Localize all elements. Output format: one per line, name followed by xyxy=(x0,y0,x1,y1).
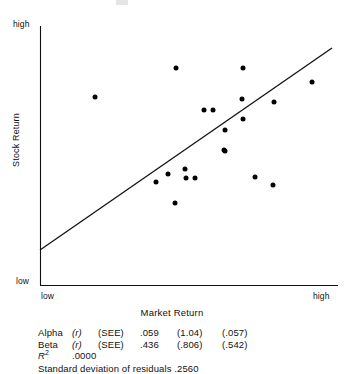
regression-statistics-block: Alpha(r)(SEE).059(1.04)(.057) Beta(r)(SE… xyxy=(38,327,247,374)
alpha-label: Alpha xyxy=(38,327,72,339)
beta-se2-value: (.542) xyxy=(222,339,247,351)
y-axis-low-label: low xyxy=(16,277,29,286)
data-point xyxy=(253,175,258,180)
data-point xyxy=(202,108,207,113)
alpha-statistics-row: Alpha(r)(SEE).059(1.04)(.057) xyxy=(38,327,247,339)
beta-r-label: (r) xyxy=(72,339,98,351)
beta-label: Beta xyxy=(38,339,72,351)
data-point-group xyxy=(93,66,315,206)
data-point xyxy=(241,117,246,122)
data-point xyxy=(241,66,246,71)
beta-see-label: (SEE) xyxy=(98,339,140,351)
data-point xyxy=(272,100,277,105)
data-point xyxy=(173,201,178,206)
data-point xyxy=(154,180,159,185)
scatter-plot-figure: high low low high Stock Return Market Re… xyxy=(0,0,344,300)
data-point xyxy=(183,167,188,172)
alpha-r-label: (r) xyxy=(72,327,98,339)
r-squared-letter: R xyxy=(38,350,45,361)
data-point xyxy=(166,172,171,177)
alpha-se1-value: (1.04) xyxy=(177,327,222,339)
plot-canvas xyxy=(0,0,344,300)
data-point xyxy=(193,176,198,181)
regression-line xyxy=(40,48,332,250)
x-axis-high-label: high xyxy=(313,292,329,301)
beta-value: .436 xyxy=(140,339,177,351)
data-point xyxy=(93,95,98,100)
data-point xyxy=(223,149,228,154)
beta-statistics-row: Beta(r)(SEE).436(.806)(.542) xyxy=(38,339,247,351)
x-axis-title: Market Return xyxy=(0,307,344,318)
r-squared-symbol: R2 xyxy=(38,350,72,362)
alpha-value: .059 xyxy=(140,327,177,339)
data-point xyxy=(174,66,179,71)
r-squared-row: R2.0000 xyxy=(38,350,247,363)
beta-se1-value: (.806) xyxy=(177,339,222,351)
x-axis-low-label: low xyxy=(41,292,54,301)
y-axis-title: Stock Return xyxy=(11,100,21,180)
data-point xyxy=(184,176,189,181)
alpha-see-label: (SEE) xyxy=(98,327,140,339)
data-point xyxy=(240,97,245,102)
y-axis-high-label: high xyxy=(13,20,29,29)
residual-sd-row: Standard deviation of residuals .2560 xyxy=(38,363,247,374)
r-squared-value: .0000 xyxy=(72,350,96,361)
data-point xyxy=(223,128,228,133)
r-squared-exponent: 2 xyxy=(45,349,49,356)
alpha-se2-value: (.057) xyxy=(222,327,247,339)
data-point xyxy=(310,80,315,85)
data-point xyxy=(211,108,216,113)
data-point xyxy=(271,183,276,188)
